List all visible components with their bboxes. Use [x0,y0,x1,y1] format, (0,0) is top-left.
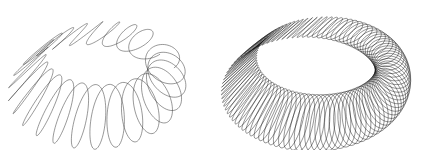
closed-torus-coil-path [221,17,410,150]
open-coil-figure [8,22,185,150]
closed-torus-figure [221,17,410,150]
open-helix-coil-path [8,22,185,150]
diagram-canvas [0,0,426,150]
